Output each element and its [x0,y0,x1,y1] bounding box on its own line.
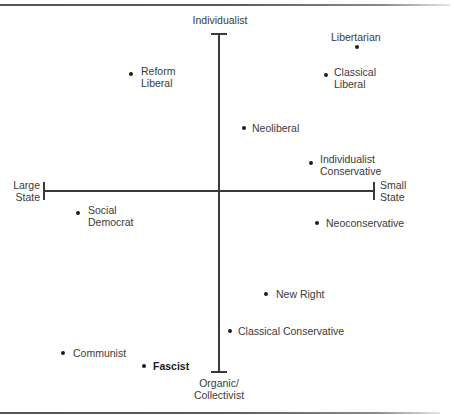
horizontal-axis-state-size [43,190,374,192]
dot-marker [324,73,328,77]
point-label: New Right [276,288,324,300]
dot-marker [355,45,359,49]
axis-label-line: Large [6,179,40,191]
point-label: Fascist [153,360,189,372]
point-label: Individualist Conservative [320,153,381,177]
dot-marker [309,161,313,165]
dot-marker [315,221,319,225]
axis-cap-bottom [211,371,227,373]
axis-label-collectivist: Organic/ Collectivist [188,377,250,401]
point-label-line: Reform [141,65,175,77]
point-label-line: Liberal [141,77,175,89]
dot-marker [142,364,146,368]
point-label-line: Individualist [320,153,381,165]
axis-label-line: State [6,191,40,203]
axis-label-text: Individualist [193,14,248,26]
axis-cap-top [211,33,227,35]
dot-marker [242,126,246,130]
axis-label-line: Small [380,179,420,191]
bottom-rule [0,412,440,414]
point-label-line: Democrat [88,216,134,228]
top-rule [0,4,450,6]
dot-marker [228,329,232,333]
point-label: Neoliberal [252,122,299,134]
dot-marker [264,292,268,296]
axis-label-large-state: Large State [6,179,40,203]
point-label-line: Social [88,204,134,216]
point-label: Communist [73,347,126,359]
point-label: Classical Liberal [334,66,376,90]
axis-label-small-state: Small State [380,179,420,203]
axis-cap-left [43,182,45,200]
dot-marker [129,72,133,76]
dot-marker [76,211,80,215]
dot-marker [61,351,65,355]
axis-label-line: State [380,191,420,203]
axis-label-individualist: Individualist [192,14,248,26]
point-label: Reform Liberal [141,65,175,89]
point-label-line: Liberal [334,78,376,90]
point-label-line: Conservative [320,165,381,177]
axis-cap-right [373,182,375,200]
vertical-axis-individualism [218,33,220,372]
point-label-line: Classical [334,66,376,78]
point-label: Classical Conservative [238,325,344,337]
axis-label-line: Organic/ [188,377,250,389]
point-label: Neoconservative [326,217,404,229]
point-label: Social Democrat [88,204,134,228]
point-label: Libertarian [331,31,381,43]
axis-label-line: Collectivist [188,389,250,401]
